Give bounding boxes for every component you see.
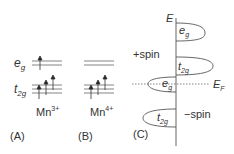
- panel-b: Mn4+ (B): [78, 61, 114, 142]
- spin-arrows-b: [89, 75, 107, 99]
- panel-a: eg t2g Mn3+ (A): [10, 56, 62, 142]
- eg-down-label: eg: [162, 77, 172, 92]
- eg-label-a: eg: [14, 56, 26, 72]
- t2g-levels-b: [84, 85, 114, 93]
- t2g-down-label: t2g: [157, 111, 168, 126]
- eg-up-label: eg: [179, 24, 189, 39]
- panel-label-b: (B): [78, 130, 93, 142]
- energy-level-diagram: eg t2g Mn3+ (A): [0, 0, 234, 154]
- fermi-level-label: EF: [213, 78, 225, 92]
- panel-label-a: (A): [10, 130, 25, 142]
- t2g-levels-a: [32, 85, 62, 93]
- t2g-up-label: t2g: [178, 60, 189, 75]
- ion-label-a: Mn3+: [36, 105, 59, 118]
- t2g-label-a: t2g: [14, 82, 27, 98]
- ion-label-b: Mn4+: [90, 105, 113, 118]
- minus-spin-label: −spin: [184, 108, 211, 120]
- spin-arrows-a: [37, 56, 55, 99]
- plus-spin-label: +spin: [133, 48, 160, 60]
- energy-axis-label: E: [166, 12, 174, 24]
- panel-c: E eg +spin t2g EF eg t2g −spin (C): [132, 12, 225, 146]
- eg-levels-b: [84, 61, 114, 65]
- panel-label-c: (C): [133, 128, 148, 140]
- eg-levels-a: [32, 61, 62, 65]
